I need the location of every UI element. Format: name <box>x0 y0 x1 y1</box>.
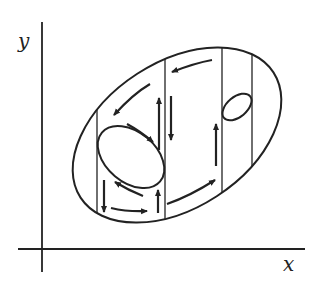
phase-diagram: y x <box>0 0 325 290</box>
y-axis-label: y <box>17 29 30 53</box>
inner-ellipse-small <box>218 88 257 125</box>
arrow-icon <box>114 84 150 115</box>
arrow-icon <box>172 60 212 72</box>
arrow-icon <box>111 208 147 211</box>
arrow-icon <box>167 180 215 204</box>
x-axis-label: x <box>283 252 294 276</box>
outer-boundary <box>41 11 313 259</box>
